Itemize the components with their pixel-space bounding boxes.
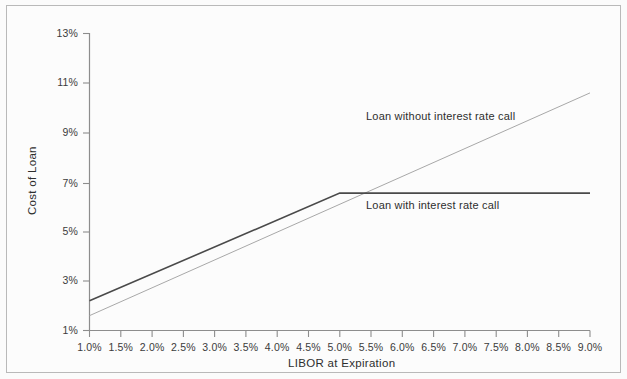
y-tick-label: 5% [38, 225, 78, 237]
x-tick-marks [90, 331, 591, 338]
chart-figure: 13% 11% 9% 7% 5% 3% 1% 1.0% 1.5% 2.0% 2.… [0, 0, 627, 379]
x-axis-title: LIBOR at Expiration [288, 357, 395, 369]
plot-canvas [0, 0, 627, 379]
y-axis-title: Cost of Loan [26, 146, 38, 215]
x-tick-label: 9.0% [570, 341, 610, 353]
y-tick-label: 7% [38, 177, 78, 189]
y-tick-label: 11% [38, 76, 78, 88]
series-line-0 [90, 93, 591, 316]
annotation-loan-with-call: Loan with interest rate call [366, 199, 499, 211]
data-series-layer [90, 93, 591, 316]
y-tick-label: 3% [38, 274, 78, 286]
y-tick-label: 13% [38, 27, 78, 39]
y-tick-label: 9% [38, 126, 78, 138]
series-line-1 [90, 193, 591, 301]
annotation-loan-without-call: Loan without interest rate call [366, 110, 515, 122]
y-tick-marks [83, 34, 90, 331]
y-tick-label: 1% [38, 324, 78, 336]
